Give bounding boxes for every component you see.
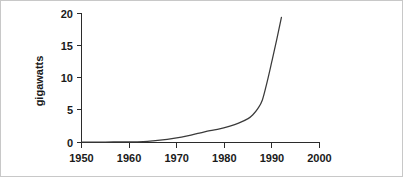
x-tick-label-1950: 1950 bbox=[69, 152, 93, 164]
y-axis-title: gigawatts bbox=[33, 56, 45, 107]
y-axis-ticks bbox=[77, 14, 82, 143]
x-tick-label-1960: 1960 bbox=[117, 152, 141, 164]
y-tick-label-5: 5 bbox=[67, 104, 73, 116]
x-tick-label-2000: 2000 bbox=[307, 152, 331, 164]
y-tick-label-15: 15 bbox=[61, 40, 73, 52]
y-tick-label-20: 20 bbox=[61, 8, 73, 20]
y-tick-label-0: 0 bbox=[67, 137, 73, 149]
line-chart: 20 15 10 5 0 1950 1960 1970 1980 1990 20… bbox=[1, 1, 403, 177]
x-tick-label-1980: 1980 bbox=[212, 152, 236, 164]
data-series-line bbox=[82, 17, 282, 142]
x-tick-label-1990: 1990 bbox=[260, 152, 284, 164]
chart-figure: 20 15 10 5 0 1950 1960 1970 1980 1990 20… bbox=[0, 0, 403, 177]
x-axis-ticks bbox=[82, 143, 320, 149]
x-tick-label-1970: 1970 bbox=[164, 152, 188, 164]
y-tick-label-10: 10 bbox=[61, 72, 73, 84]
